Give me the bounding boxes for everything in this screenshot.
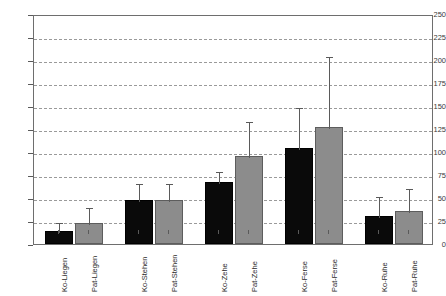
x-axis-label-ko-ruhe: Ko-Ruhe — [381, 262, 389, 292]
error-bar-cap — [406, 189, 413, 190]
error-bar-pat-liegen — [89, 208, 90, 225]
x-axis-tick — [378, 230, 379, 234]
error-bar-cap — [216, 172, 223, 173]
x-axis-tick — [328, 230, 329, 234]
error-bar-ko-ruhe — [379, 197, 380, 218]
gridline — [34, 39, 432, 40]
gridline — [34, 85, 432, 86]
error-bar-cap — [296, 108, 303, 109]
bar-pat-liegen — [75, 223, 103, 244]
error-bar-cap — [326, 57, 333, 58]
bar-ko-zehe — [205, 182, 233, 244]
bar-ko-ferse — [285, 148, 313, 244]
error-bar-pat-zehe — [249, 122, 250, 158]
x-axis-tick — [58, 230, 59, 234]
gridline — [34, 108, 432, 109]
error-bar-cap — [376, 197, 383, 198]
bar-pat-stehen — [155, 200, 183, 244]
bar-pat-ruhe — [395, 211, 423, 244]
x-axis-tick — [408, 230, 409, 234]
x-axis-label-ko-zehe: Ko-Zehe — [221, 263, 229, 292]
error-bar-cap — [246, 122, 253, 123]
error-bar-cap — [86, 208, 93, 209]
x-axis-tick — [218, 230, 219, 234]
error-bar-cap — [56, 223, 63, 224]
gridline — [34, 200, 432, 201]
gridline — [34, 177, 432, 178]
x-axis-label-ko-stehen: Ko-Stehen — [141, 257, 149, 292]
x-axis-label-ko-ferse: Ko-Ferse — [301, 261, 309, 292]
error-bar-pat-ferse — [329, 57, 330, 129]
x-axis-tick — [138, 230, 139, 234]
error-bar-ko-liegen — [59, 223, 60, 233]
chart-figure: 0255075100125150175200225250 Ko-LiegenPa… — [0, 0, 446, 296]
x-axis-label-pat-ruhe: Pat-Ruhe — [411, 260, 419, 292]
plot-area — [33, 15, 433, 245]
x-axis-tick — [168, 230, 169, 234]
bar-pat-zehe — [235, 156, 263, 244]
bar-ko-ruhe — [365, 216, 393, 244]
y-axis-tick — [28, 245, 33, 246]
x-axis-tick — [248, 230, 249, 234]
x-axis-label-pat-zehe: Pat-Zehe — [251, 261, 259, 292]
bar-pat-ferse — [315, 127, 343, 244]
bar-ko-stehen — [125, 200, 153, 244]
x-axis-tick — [298, 230, 299, 234]
x-axis-tick — [88, 230, 89, 234]
gridline — [34, 62, 432, 63]
error-bar-cap — [166, 184, 173, 185]
error-bar-ko-stehen — [139, 184, 140, 201]
error-bar-pat-ruhe — [409, 189, 410, 213]
gridline — [34, 154, 432, 155]
error-bar-pat-stehen — [169, 184, 170, 201]
error-bar-cap — [136, 184, 143, 185]
error-bar-ko-zehe — [219, 172, 220, 184]
x-axis-label-pat-ferse: Pat-Ferse — [331, 259, 339, 292]
x-axis-label-ko-liegen: Ko-Liegen — [61, 258, 69, 292]
x-axis-label-pat-liegen: Pat-Liegen — [91, 256, 99, 292]
x-axis-label-pat-stehen: Pat-Stehen — [171, 254, 179, 292]
gridline — [34, 131, 432, 132]
error-bar-ko-ferse — [299, 108, 300, 150]
